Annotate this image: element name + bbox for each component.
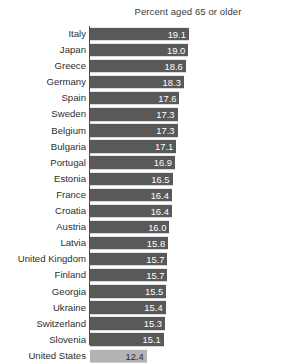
bar-row: Greece18.6 — [0, 58, 286, 74]
bar: 15.8 — [90, 236, 168, 250]
category-label: Greece — [0, 58, 86, 74]
bar: 18.3 — [90, 75, 184, 89]
bar: 17.3 — [90, 123, 178, 137]
bar-row: Switzerland15.3 — [0, 316, 286, 332]
bar-value-label: 15.8 — [147, 237, 165, 251]
bar: 15.4 — [90, 300, 166, 314]
bar-row: France16.4 — [0, 187, 286, 203]
bar-value-label: 18.3 — [163, 76, 181, 90]
category-label: Spain — [0, 90, 86, 106]
bar: 19.1 — [90, 27, 189, 41]
bar-row: Japan19.0 — [0, 42, 286, 58]
category-label: United Kingdom — [0, 251, 86, 267]
bar-track: 18.3 — [90, 74, 286, 90]
bar-value-label: 16.0 — [148, 221, 166, 235]
bar-value-label: 15.5 — [145, 285, 163, 299]
bar-track: 17.3 — [90, 106, 286, 122]
bar-track: 17.6 — [90, 90, 286, 106]
bar: 16.9 — [90, 155, 175, 169]
category-label: Italy — [0, 26, 86, 42]
bar: 16.4 — [90, 204, 172, 218]
bar-track: 16.5 — [90, 171, 286, 187]
category-label: Portugal — [0, 155, 86, 171]
bar-row: Croatia16.4 — [0, 203, 286, 219]
bar-row: Finland15.7 — [0, 267, 286, 283]
category-label: Japan — [0, 42, 86, 58]
bar-track: 15.5 — [90, 284, 286, 300]
bar-value-label: 17.6 — [158, 92, 176, 106]
bar-row: Ukraine15.4 — [0, 300, 286, 316]
bar-value-label: 16.4 — [151, 205, 169, 219]
bar: 17.6 — [90, 91, 179, 105]
category-label: Estonia — [0, 171, 86, 187]
bar: 16.0 — [90, 220, 169, 234]
category-label: Switzerland — [0, 316, 86, 332]
bar-value-label: 15.7 — [146, 269, 164, 283]
bar-track: 16.0 — [90, 219, 286, 235]
bar-row: Sweden17.3 — [0, 106, 286, 122]
category-label: Germany — [0, 74, 86, 90]
bar: 15.5 — [90, 284, 166, 298]
category-label: Austria — [0, 219, 86, 235]
bar-track: 19.1 — [90, 26, 286, 42]
bar-track: 17.3 — [90, 123, 286, 139]
bar-value-label: 17.1 — [155, 140, 173, 154]
bar: 19.0 — [90, 43, 188, 57]
category-label: France — [0, 187, 86, 203]
category-label: Latvia — [0, 235, 86, 251]
bar-track: 15.4 — [90, 300, 286, 316]
category-label: Bulgaria — [0, 139, 86, 155]
category-label: Sweden — [0, 106, 86, 122]
bar-row: Latvia15.8 — [0, 235, 286, 251]
bar-row: Portugal16.9 — [0, 155, 286, 171]
bar-value-label: 15.4 — [144, 301, 162, 315]
bar-value-label: 18.6 — [165, 60, 183, 74]
bar-track: 16.4 — [90, 187, 286, 203]
category-label: Ukraine — [0, 300, 86, 316]
bar-value-label: 16.4 — [151, 189, 169, 203]
bar-row: Germany18.3 — [0, 74, 286, 90]
bar-value-label: 15.3 — [144, 317, 162, 331]
bar-value-label: 15.1 — [142, 333, 160, 347]
bar-value-label: 15.7 — [146, 253, 164, 267]
bar: 16.5 — [90, 172, 173, 186]
bar-row: Bulgaria17.1 — [0, 139, 286, 155]
bar-track: 12.4 — [90, 348, 286, 364]
bar-track: 19.0 — [90, 42, 286, 58]
bar-track: 15.3 — [90, 316, 286, 332]
category-label: Finland — [0, 267, 86, 283]
bar-track: 17.1 — [90, 139, 286, 155]
bar-track: 15.7 — [90, 267, 286, 283]
bar-row: Slovenia15.1 — [0, 332, 286, 348]
bar-value-label: 17.3 — [156, 124, 174, 138]
category-label: Georgia — [0, 284, 86, 300]
bar-track: 16.4 — [90, 203, 286, 219]
chart-title: Percent aged 65 or older — [90, 6, 286, 17]
bar-row: Austria16.0 — [0, 219, 286, 235]
bar-track: 16.9 — [90, 155, 286, 171]
bar-value-label: 12.4 — [125, 350, 143, 364]
bar-track: 15.7 — [90, 251, 286, 267]
bar: 16.4 — [90, 188, 172, 202]
bar-row: United States12.4 — [0, 348, 286, 364]
bar-highlighted: 12.4 — [90, 349, 147, 363]
bar-value-label: 17.3 — [156, 108, 174, 122]
bar-row: Georgia15.5 — [0, 284, 286, 300]
bar-row: United Kingdom15.7 — [0, 251, 286, 267]
bar: 18.6 — [90, 59, 186, 73]
bar-value-label: 16.9 — [154, 156, 172, 170]
bar-track: 15.1 — [90, 332, 286, 348]
category-label: Slovenia — [0, 332, 86, 348]
bar: 17.1 — [90, 139, 176, 153]
category-label: Croatia — [0, 203, 86, 219]
bar-row: Italy19.1 — [0, 26, 286, 42]
bar: 17.3 — [90, 107, 178, 121]
category-label: United States — [0, 348, 86, 364]
bar-row: Estonia16.5 — [0, 171, 286, 187]
plot-area: Italy19.1Japan19.0Greece18.6Germany18.3S… — [0, 26, 286, 364]
bar-track: 18.6 — [90, 58, 286, 74]
bar-track: 15.8 — [90, 235, 286, 251]
bar: 15.7 — [90, 252, 167, 266]
category-label: Belgium — [0, 123, 86, 139]
